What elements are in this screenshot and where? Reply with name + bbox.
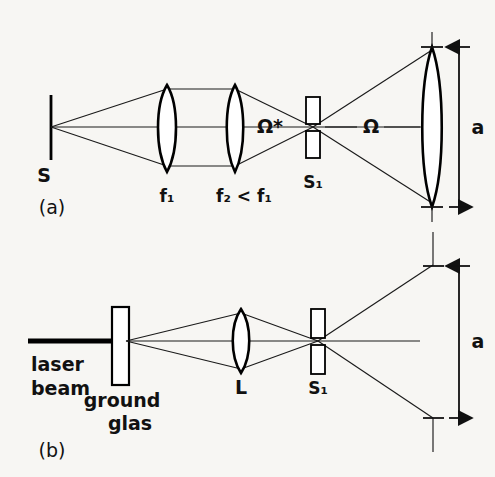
- panel-b-label: (b): [39, 439, 66, 461]
- ground-glass-label-line1: ground: [84, 389, 161, 411]
- lens-f2-icon: [227, 85, 244, 172]
- slit-s1-b-label: S₁: [308, 378, 328, 398]
- lens-L-icon: [233, 309, 250, 373]
- slit-s1-a-label: S₁: [303, 172, 323, 192]
- lens-L-label: L: [235, 376, 247, 398]
- laser-label-line2: beam: [31, 377, 90, 399]
- laser-label-line1: laser: [31, 353, 85, 375]
- solid-angle-star-label: Ω*: [257, 115, 283, 137]
- ground-glass-label-line2: glas: [108, 412, 152, 434]
- panel-a-label: (a): [39, 196, 65, 218]
- lens-f2-label: f₂ < f₁: [216, 186, 272, 206]
- aperture-a-label-panel-b: a: [472, 330, 485, 352]
- source-label: S: [37, 164, 51, 186]
- solid-angle-label: Ω: [363, 115, 379, 137]
- figure-background: [0, 0, 495, 477]
- optics-figure: S f₁ f₂ < f₁ S₁ Ω* Ω a (a): [0, 0, 495, 477]
- ground-glass-icon: [112, 307, 129, 385]
- figure-canvas: S f₁ f₂ < f₁ S₁ Ω* Ω a (a): [0, 0, 495, 477]
- aperture-a-label-panel-a: a: [472, 116, 485, 138]
- lens-f1-icon: [158, 85, 176, 172]
- lens-f1-label: f₁: [160, 186, 175, 206]
